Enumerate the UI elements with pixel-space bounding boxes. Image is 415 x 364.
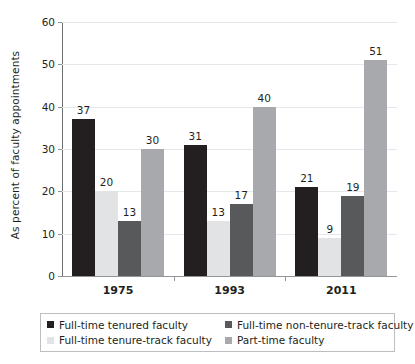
y-axis-tick-label: 50 — [42, 58, 55, 70]
x-axis-group-label: 1975 — [103, 284, 134, 297]
y-axis-tick — [58, 276, 62, 277]
x-axis-group-label: 1993 — [214, 284, 245, 297]
legend-item-label: Part-time faculty — [237, 334, 324, 346]
bar-value-label: 9 — [326, 223, 333, 235]
bar-value-label: 21 — [300, 172, 313, 184]
y-axis-tick-label: 40 — [42, 101, 55, 113]
bar[interactable]: 19 — [341, 196, 364, 276]
bar[interactable]: 40 — [253, 107, 276, 276]
y-axis-tick — [58, 191, 62, 192]
y-axis-tick-label: 20 — [42, 185, 55, 197]
y-axis-tick-label: 10 — [42, 228, 55, 240]
bar[interactable]: 13 — [207, 221, 230, 276]
bar-value-label: 20 — [100, 176, 113, 188]
x-axis-group-label: 2011 — [326, 284, 357, 297]
bar[interactable]: 37 — [72, 119, 95, 276]
bar-value-label: 19 — [346, 181, 359, 193]
y-axis-tick — [58, 22, 62, 23]
legend-item-full-time-non-tenure-track-faculty[interactable]: Full-time non-tenure-track faculty — [225, 317, 413, 333]
chart-legend: Full-time tenured faculty Full-time non-… — [40, 313, 395, 352]
legend-swatch-icon — [47, 321, 54, 328]
bar-value-label: 17 — [234, 189, 247, 201]
bar-value-label: 51 — [369, 45, 382, 57]
legend-swatch-icon — [225, 337, 232, 344]
legend-item-part-time-faculty[interactable]: Part-time faculty — [225, 333, 413, 349]
y-axis-tick-label: 60 — [42, 16, 55, 28]
gridline — [62, 107, 397, 108]
bar[interactable]: 21 — [295, 187, 318, 276]
bar[interactable]: 51 — [364, 60, 387, 276]
legend-item-label: Full-time tenure-track faculty — [59, 334, 212, 346]
legend-item-full-time-tenure-track-faculty[interactable]: Full-time tenure-track faculty — [47, 333, 225, 349]
bar[interactable]: 13 — [118, 221, 141, 276]
legend-swatch-icon — [225, 321, 232, 328]
bar[interactable]: 9 — [318, 238, 341, 276]
y-axis-tick — [58, 107, 62, 108]
bar[interactable]: 17 — [230, 204, 253, 276]
y-axis-tick-label: 30 — [42, 143, 55, 155]
plot-area: 010203040506037201330311317402191951 — [62, 22, 397, 276]
y-axis-title: As percent of faculty appointments — [0, 0, 30, 290]
bar-value-label: 13 — [211, 206, 224, 218]
y-axis-tick — [58, 64, 62, 65]
x-axis-tick — [174, 276, 175, 281]
legend-item-label: Full-time non-tenure-track faculty — [237, 319, 413, 331]
bar[interactable]: 20 — [95, 191, 118, 276]
y-axis-tick — [58, 234, 62, 235]
x-axis-line — [62, 276, 397, 277]
y-axis-tick — [58, 149, 62, 150]
bar-value-label: 30 — [146, 134, 159, 146]
bar-value-label: 40 — [257, 92, 270, 104]
gridline — [62, 64, 397, 65]
bar-value-label: 13 — [123, 206, 136, 218]
bar[interactable]: 31 — [184, 145, 207, 276]
gridline — [62, 22, 397, 23]
gridline — [62, 149, 397, 150]
bar-value-label: 37 — [77, 104, 90, 116]
y-axis-title-text: As percent of faculty appointments — [9, 51, 21, 239]
x-axis-tick — [285, 276, 286, 281]
bar[interactable]: 30 — [141, 149, 164, 276]
bar-value-label: 31 — [188, 130, 201, 142]
legend-swatch-icon — [47, 337, 54, 344]
legend-item-full-time-tenured-faculty[interactable]: Full-time tenured faculty — [47, 317, 225, 333]
y-axis-tick-label: 0 — [48, 270, 55, 282]
legend-item-label: Full-time tenured faculty — [59, 319, 188, 331]
